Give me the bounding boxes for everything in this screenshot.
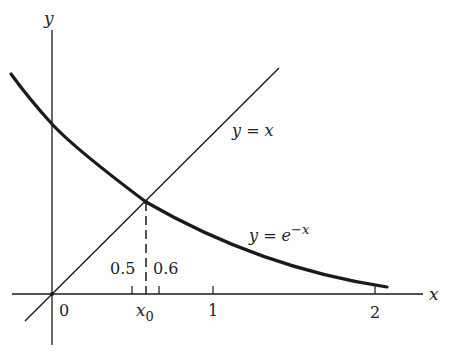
tick-label-2: 2	[370, 303, 380, 322]
x0-label: x0	[136, 300, 154, 324]
figure: y x 0 0.5 0.6 1 2 x0 y = x y = e−x	[0, 0, 451, 356]
curve-label: y = e−x	[248, 222, 310, 245]
line-y-equals-x	[25, 68, 279, 321]
line-label: y = x	[231, 121, 274, 140]
origin-label: 0	[59, 301, 69, 320]
tick-label-0-5: 0.5	[110, 259, 135, 278]
y-axis-label: y	[43, 8, 54, 28]
x-axis-label: x	[429, 284, 439, 304]
tick-label-0-6: 0.6	[153, 259, 178, 278]
curve-exp-neg-x	[11, 74, 387, 287]
tick-label-1: 1	[208, 301, 218, 320]
intersection-point	[144, 200, 148, 204]
origin-point	[50, 292, 54, 296]
